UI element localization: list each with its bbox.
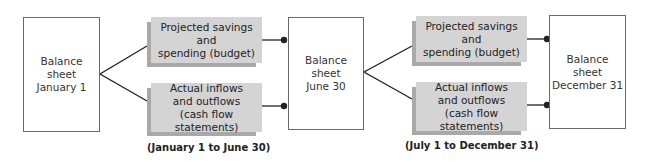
budget-box-period-2: Projected savings and spending (budget) [412,16,527,71]
period-label-2: (July 1 to December 31) [405,140,535,151]
cashflow-box-period-2: Actual inflows and outflows (cash flow s… [412,82,527,137]
connector-dot [281,37,287,43]
cashflow-label: Actual inflows and outflows (cash flow s… [154,82,259,134]
balance-sheet-label: Balance sheet June 30 [305,54,347,93]
budget-box-period-1: Projected savings and spending (budget) [147,17,262,72]
balance-sheet-december: Balance sheet December 31 [549,15,626,129]
balance-sheet-january: Balance sheet January 1 [23,17,100,132]
connector-dot [281,103,287,109]
period-label-1: (January 1 to June 30) [147,142,262,153]
branch-connector [100,46,147,101]
cashflow-box-period-1: Actual inflows and outflows (cash flow s… [147,83,262,138]
balance-sheet-label: Balance sheet December 31 [552,53,623,92]
cashflow-label: Actual inflows and outflows (cash flow s… [419,81,524,133]
balance-sheet-label: Balance sheet January 1 [37,55,87,94]
branch-connector [364,46,412,99]
budget-label: Projected savings and spending (budget) [419,20,524,59]
balance-sheet-june: Balance sheet June 30 [288,17,364,130]
budget-label: Projected savings and spending (budget) [154,21,259,60]
